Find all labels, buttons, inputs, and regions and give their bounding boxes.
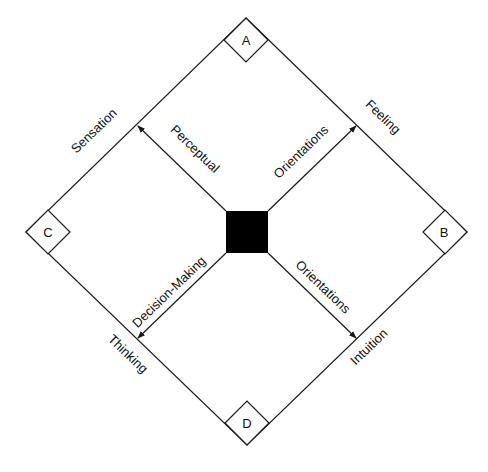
- corner-box-a: A: [224, 18, 268, 62]
- arrow-label-perceptual: Perceptual: [168, 122, 223, 176]
- arrow-label-decision-making: Decision-Making: [129, 253, 209, 331]
- corner-box-b: B: [423, 210, 467, 254]
- corner-label-b: B: [440, 225, 449, 240]
- corner-box-c: C: [26, 210, 70, 254]
- edge-label-intuition: Intuition: [347, 326, 390, 368]
- corner-label-a: A: [242, 33, 251, 48]
- arrow-label-orientations-upper: Orientations: [270, 122, 331, 182]
- center-square: [226, 211, 268, 253]
- edge-label-feeling: Feeling: [363, 97, 404, 137]
- corner-box-d: D: [225, 401, 269, 445]
- personality-diamond-diagram: A B C D Sensation Feeling Thinking Intui…: [0, 0, 488, 472]
- edge-label-thinking: Thinking: [105, 331, 151, 376]
- arrow-label-orientations-lower: Orientations: [293, 257, 354, 317]
- corner-label-d: D: [242, 416, 251, 431]
- arrow-lower-left: [138, 253, 226, 338]
- corner-label-c: C: [43, 225, 52, 240]
